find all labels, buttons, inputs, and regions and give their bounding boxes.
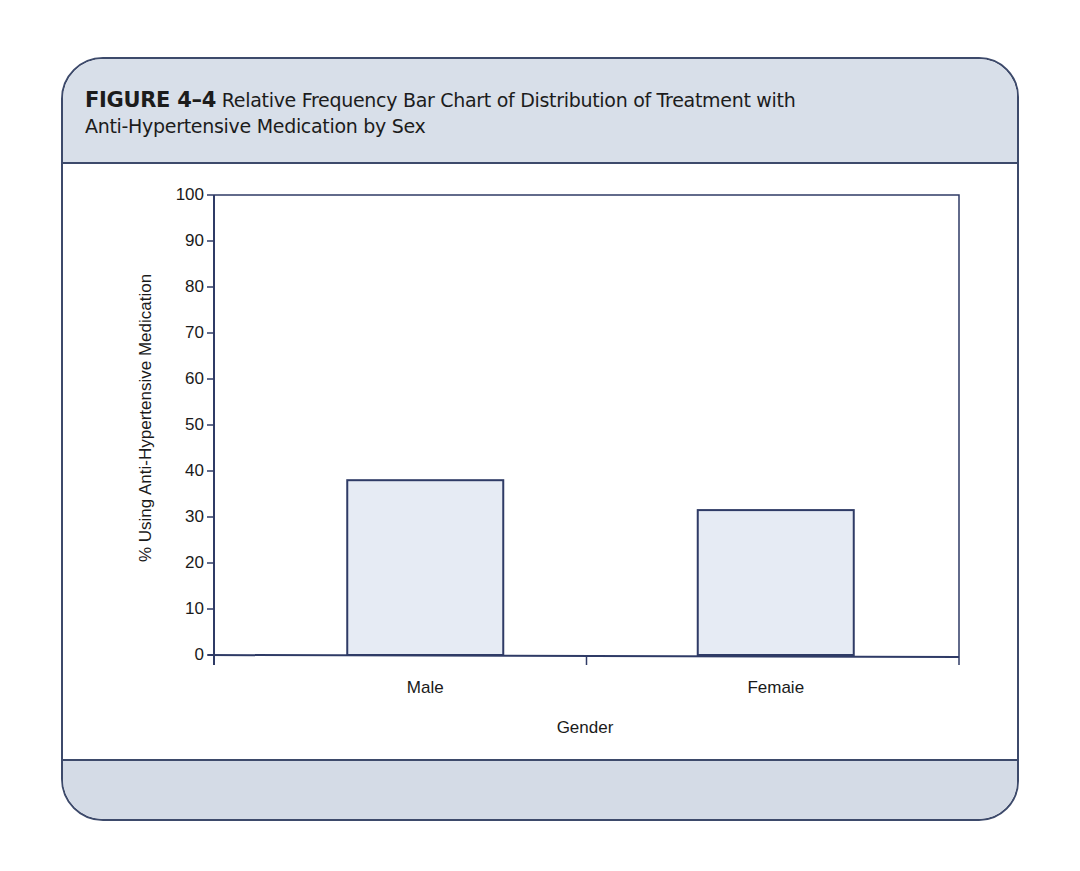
bar-male [347,480,503,655]
y-tick-label: 60 [164,369,204,389]
y-tick-label: 90 [164,231,204,251]
bar-femaie [698,510,854,655]
y-tick-label: 50 [164,415,204,435]
chart-plot-area [0,0,1080,871]
x-category-label: Male [325,678,525,698]
bar-chart: % Using Anti-Hypertensive Medication Gen… [0,0,1080,871]
y-axis-title: % Using Anti-Hypertensive Medication [136,228,156,608]
y-tick-label: 30 [164,507,204,527]
y-tick-label: 100 [164,185,204,205]
y-tick-label: 20 [164,553,204,573]
y-tick-label: 40 [164,461,204,481]
y-tick-label: 70 [164,323,204,343]
y-tick-label: 10 [164,599,204,619]
y-tick-label: 0 [164,645,204,665]
x-axis-title: Gender [485,718,685,738]
x-category-label: Femaie [676,678,876,698]
y-tick-label: 80 [164,277,204,297]
